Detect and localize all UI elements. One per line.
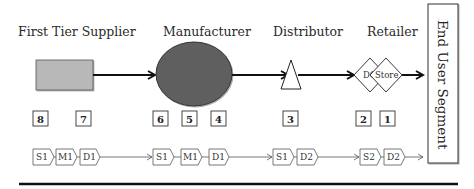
- svg-text:D2: D2: [300, 152, 313, 162]
- number-box: 5: [182, 111, 197, 126]
- supplier-rectangle-icon: [36, 60, 93, 90]
- number-box: 1: [380, 111, 395, 126]
- svg-text:3: 3: [287, 114, 294, 125]
- svg-text:2: 2: [360, 114, 367, 125]
- svg-text:D1: D1: [83, 152, 96, 162]
- svg-text:S1: S1: [156, 152, 168, 162]
- number-box: 3: [283, 111, 298, 126]
- process-step: S1: [33, 149, 54, 165]
- svg-text:S1: S1: [276, 152, 288, 162]
- svg-text:D2: D2: [387, 152, 400, 162]
- number-box: 6: [153, 111, 168, 126]
- supply-chain-diagram: First Tier Supplier Manufacturer Distrib…: [0, 0, 474, 189]
- svg-text:7: 7: [80, 114, 87, 125]
- process-step: M1: [181, 149, 202, 165]
- process-step: S1: [273, 149, 294, 165]
- label-distributor: Distributor: [273, 24, 343, 39]
- process-step: D2: [384, 149, 405, 165]
- number-box: 4: [211, 111, 226, 126]
- label-first-tier-supplier: First Tier Supplier: [18, 24, 136, 39]
- number-box: 8: [33, 111, 48, 126]
- svg-text:S2: S2: [363, 152, 375, 162]
- label-manufacturer: Manufacturer: [163, 24, 251, 39]
- svg-text:1: 1: [384, 114, 391, 125]
- svg-text:8: 8: [37, 114, 44, 125]
- process-step: D1: [209, 149, 229, 165]
- end-user-segment-label: End User Segment: [435, 20, 451, 150]
- svg-text:Store: Store: [375, 70, 398, 80]
- svg-text:4: 4: [215, 114, 222, 125]
- process-step: S1: [153, 149, 174, 165]
- process-step: D2: [297, 149, 318, 165]
- svg-text:5: 5: [186, 114, 193, 125]
- svg-text:M1: M1: [58, 152, 73, 162]
- process-step: M1: [56, 149, 77, 165]
- svg-text:6: 6: [157, 114, 164, 125]
- label-retailer: Retailer: [367, 24, 418, 39]
- number-box: 7: [76, 111, 91, 126]
- svg-text:S1: S1: [36, 152, 48, 162]
- number-box: 2: [356, 111, 371, 126]
- process-step: S2: [360, 149, 381, 165]
- manufacturer-circle-icon: [156, 42, 232, 106]
- process-step: D1: [80, 149, 100, 165]
- svg-text:M1: M1: [183, 152, 198, 162]
- svg-text:D1: D1: [212, 152, 225, 162]
